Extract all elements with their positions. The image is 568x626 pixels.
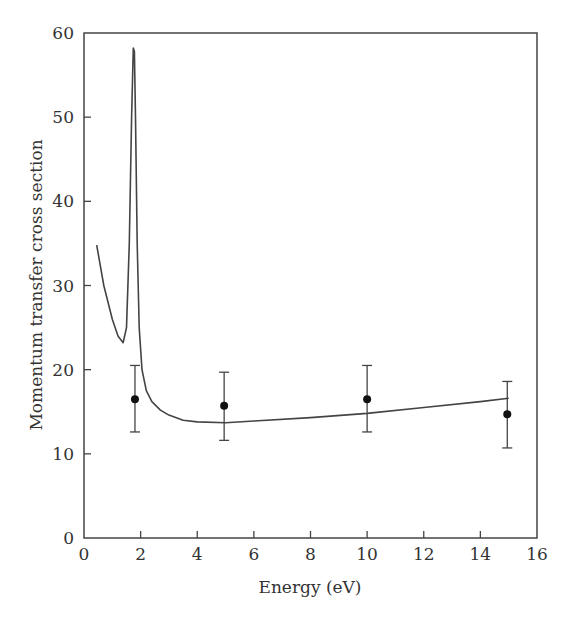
y-tick-label: 30 [52,276,74,296]
y-tick-label: 60 [52,23,74,43]
x-tick-label: 6 [248,544,259,564]
x-tick-label: 8 [305,544,316,564]
y-tick-label: 40 [52,191,74,211]
x-tick-label: 10 [356,544,378,564]
x-axis-title: Energy (eV) [258,577,361,597]
chart: 0246810121416 0102030405060 Energy (eV) … [0,0,568,626]
x-tick-label: 0 [79,544,90,564]
data-point [502,381,512,447]
x-tick-label: 14 [470,544,492,564]
y-axis-ticks: 0102030405060 [52,23,91,548]
theory-curve [97,48,509,423]
y-tick-label: 50 [52,107,74,127]
data-point [219,372,229,440]
x-axis-ticks: 0246810121416 [79,531,548,564]
measurement-points [130,365,512,447]
data-point [362,365,372,431]
y-tick-label: 20 [52,360,74,380]
x-tick-label: 4 [192,544,203,564]
x-tick-label: 16 [526,544,548,564]
data-point [130,365,140,431]
y-axis-title: Momentum transfer cross section [26,139,46,430]
x-tick-label: 2 [135,544,146,564]
plot-frame [84,33,537,538]
y-tick-label: 0 [63,528,74,548]
x-tick-label: 12 [413,544,435,564]
y-tick-label: 10 [52,444,74,464]
